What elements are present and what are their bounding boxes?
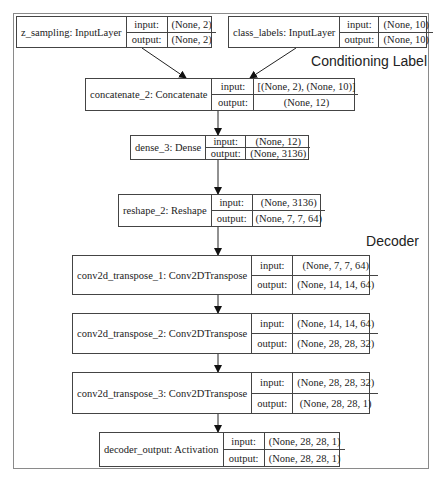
layer-name: reshape_2: Reshape	[119, 195, 212, 226]
input-shape: (None, 14, 14, 64)	[293, 314, 378, 333]
group-label-decoder: Decoder	[366, 233, 419, 249]
output-key: output:	[252, 394, 293, 414]
layer-node-concatenate: concatenate_2: Concatenate input:[(None,…	[85, 78, 355, 111]
input-shape: (None, 28, 28, 32)	[293, 373, 378, 393]
output-shape: (None, 3136)	[246, 148, 310, 159]
layer-name: concatenate_2: Concatenate	[86, 79, 212, 110]
layer-node-conv2d-transpose-2: conv2d_transpose_2: Conv2DTranspose inpu…	[72, 313, 370, 354]
output-shape: (None, 7, 7, 64)	[253, 211, 325, 226]
input-key: input:	[340, 17, 379, 32]
input-key: input:	[212, 195, 253, 210]
output-key: output:	[212, 95, 254, 110]
output-shape: (None, 12)	[254, 95, 358, 110]
input-shape: (None, 7, 7, 64)	[293, 256, 378, 275]
layer-name: z_sampling: InputLayer	[17, 17, 127, 47]
input-key: input:	[252, 314, 293, 333]
output-shape: (None, 2)	[168, 33, 216, 48]
input-key: input:	[252, 256, 293, 275]
layer-node-reshape: reshape_2: Reshape input:(None, 3136) ou…	[118, 194, 321, 227]
layer-node-class-labels: class_labels: InputLayer input:(None, 10…	[228, 16, 427, 48]
output-shape: (None, 14, 14, 64)	[293, 276, 378, 295]
layer-name: class_labels: InputLayer	[229, 17, 340, 47]
output-shape: (None, 28, 28, 1)	[293, 394, 378, 414]
input-shape: (None, 12)	[246, 136, 310, 147]
input-key: input:	[212, 79, 254, 94]
output-key: output:	[252, 334, 293, 353]
input-key: input:	[206, 136, 246, 147]
input-shape: [(None, 2), (None, 10)]	[254, 79, 358, 94]
output-key: output:	[252, 276, 293, 295]
output-key: output:	[127, 33, 168, 48]
input-key: input:	[252, 373, 293, 393]
layer-node-decoder-output: decoder_output: Activation input:(None, …	[99, 432, 340, 467]
output-shape: (None, 10)	[379, 33, 433, 48]
input-key: input:	[224, 433, 265, 449]
input-shape: (None, 10)	[379, 17, 433, 32]
output-key: output:	[224, 450, 265, 466]
layer-node-dense: dense_3: Dense input:(None, 12) output:(…	[130, 135, 309, 160]
output-shape: (None, 28, 28, 32)	[293, 334, 378, 353]
layer-name: conv2d_transpose_2: Conv2DTranspose	[73, 314, 252, 353]
edge-z-sampling-to-concatenate	[142, 48, 186, 78]
output-shape: (None, 28, 28, 1)	[265, 450, 345, 466]
input-key: input:	[127, 17, 168, 32]
output-key: output:	[340, 33, 379, 48]
input-shape: (None, 3136)	[253, 195, 325, 210]
layer-name: conv2d_transpose_3: Conv2DTranspose	[73, 373, 252, 413]
input-shape: (None, 28, 28, 1)	[265, 433, 345, 449]
layer-node-z-sampling: z_sampling: InputLayer input:(None, 2) o…	[16, 16, 212, 48]
layer-name: decoder_output: Activation	[100, 433, 224, 466]
layer-name: dense_3: Dense	[131, 136, 206, 159]
layer-name: conv2d_transpose_1: Conv2DTranspose	[73, 256, 252, 294]
layer-node-conv2d-transpose-1: conv2d_transpose_1: Conv2DTranspose inpu…	[72, 255, 370, 295]
output-key: output:	[206, 148, 246, 159]
input-shape: (None, 2)	[168, 17, 216, 32]
output-key: output:	[212, 211, 253, 226]
edge-class-labels-to-concatenate	[250, 48, 296, 78]
layer-node-conv2d-transpose-3: conv2d_transpose_3: Conv2DTranspose inpu…	[72, 372, 370, 414]
group-label-conditioning: Conditioning Label	[311, 53, 427, 69]
